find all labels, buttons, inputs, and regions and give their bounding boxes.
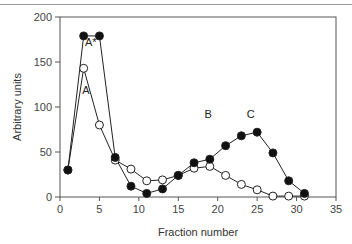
data-point-filled [300, 189, 308, 197]
data-point-open [222, 171, 230, 179]
x-tick-label: 15 [172, 203, 184, 215]
data-point-filled [174, 171, 182, 179]
data-point-filled [64, 166, 72, 174]
data-point-filled [190, 159, 198, 167]
y-tick-label: 50 [40, 146, 52, 158]
y-tick-label: 200 [34, 11, 52, 23]
y-tick-label: 150 [34, 56, 52, 68]
data-point-filled [206, 155, 214, 163]
data-point-filled [127, 182, 135, 190]
data-point-open [80, 64, 88, 72]
data-point-filled [111, 153, 119, 161]
series-line-filled [68, 36, 305, 194]
data-point-filled [95, 32, 103, 40]
data-point-filled [269, 149, 277, 157]
peak-label: B [205, 108, 212, 120]
x-tick-label: 25 [251, 203, 263, 215]
x-tick-label: 5 [96, 203, 102, 215]
data-point-open [95, 121, 103, 129]
data-point-open [159, 176, 167, 184]
x-tick-label: 30 [290, 203, 302, 215]
peak-label: A [82, 84, 90, 96]
x-tick-label: 20 [212, 203, 224, 215]
x-tick-label: 35 [330, 203, 342, 215]
data-point-open [127, 165, 135, 173]
data-point-open [285, 192, 293, 200]
y-tick-label: 0 [46, 191, 52, 203]
peak-label: C [247, 108, 255, 120]
x-tick-label: 10 [133, 203, 145, 215]
y-axis-title: Arbitrary units [11, 73, 23, 141]
chart-canvas: 05010015020005101520253035Fraction numbe… [0, 0, 352, 244]
x-axis-title: Fraction number [158, 226, 238, 238]
data-point-open [237, 180, 245, 188]
peak-label: A* [85, 36, 97, 48]
data-point-filled [237, 132, 245, 140]
data-point-filled [143, 189, 151, 197]
data-point-filled [222, 142, 230, 150]
x-tick-label: 0 [57, 203, 63, 215]
data-point-filled [285, 177, 293, 185]
series-line-open [68, 68, 305, 196]
data-point-filled [159, 185, 167, 193]
y-tick-label: 100 [34, 101, 52, 113]
data-point-open [253, 186, 261, 194]
data-point-open [143, 177, 151, 185]
data-point-filled [253, 128, 261, 136]
data-point-open [269, 192, 277, 200]
